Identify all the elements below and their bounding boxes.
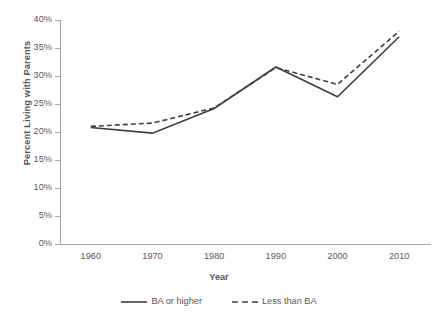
legend-item[interactable]: Less than BA <box>232 297 317 306</box>
x-axis-tick-labels: 196019701980199020002010 <box>0 252 438 266</box>
legend-item[interactable]: BA or higher <box>121 297 202 306</box>
x-axis-line <box>60 244 431 245</box>
plot-area <box>60 20 430 244</box>
y-axis-tick-label: 20% <box>18 127 52 136</box>
y-axis-tick-label: 40% <box>18 15 52 24</box>
y-axis-tick-mark <box>55 20 60 21</box>
x-axis-tick-label: 2010 <box>376 252 422 261</box>
y-axis-tick-label: 15% <box>18 155 52 164</box>
x-axis-tick-label: 1960 <box>68 252 114 261</box>
y-axis-tick-mark <box>55 48 60 49</box>
y-axis-tick-mark <box>55 244 60 245</box>
series-svg <box>60 20 430 244</box>
x-axis-tick-label: 1980 <box>191 252 237 261</box>
y-axis-tick-label: 25% <box>18 99 52 108</box>
chart-legend: BA or higherLess than BA <box>0 297 438 306</box>
y-axis-tick-mark <box>55 104 60 105</box>
y-axis-tick-label: 30% <box>18 71 52 80</box>
x-axis-title: Year <box>0 272 438 282</box>
x-axis-tick-label: 1990 <box>253 252 299 261</box>
series-line-ba-or-higher <box>91 37 399 133</box>
legend-label: Less than BA <box>262 297 317 306</box>
y-axis-tick-mark <box>55 216 60 217</box>
y-axis-tick-label: 35% <box>18 43 52 52</box>
x-axis-tick-label: 2000 <box>315 252 361 261</box>
solid-line-icon <box>121 298 147 306</box>
legend-label: BA or higher <box>151 297 202 306</box>
y-axis-tick-mark <box>55 160 60 161</box>
y-axis-tick-mark <box>55 188 60 189</box>
y-axis-tick-label: 0% <box>18 239 52 248</box>
x-axis-tick-label: 1970 <box>130 252 176 261</box>
y-axis-tick-mark <box>55 132 60 133</box>
dashed-line-icon <box>232 298 258 306</box>
y-axis-tick-label: 10% <box>18 183 52 192</box>
line-chart: Percent Living with Parents 0%5%10%15%20… <box>0 0 438 323</box>
y-axis-tick-mark <box>55 76 60 77</box>
y-axis-tick-label: 5% <box>18 211 52 220</box>
series-line-less-than-ba <box>91 31 399 126</box>
